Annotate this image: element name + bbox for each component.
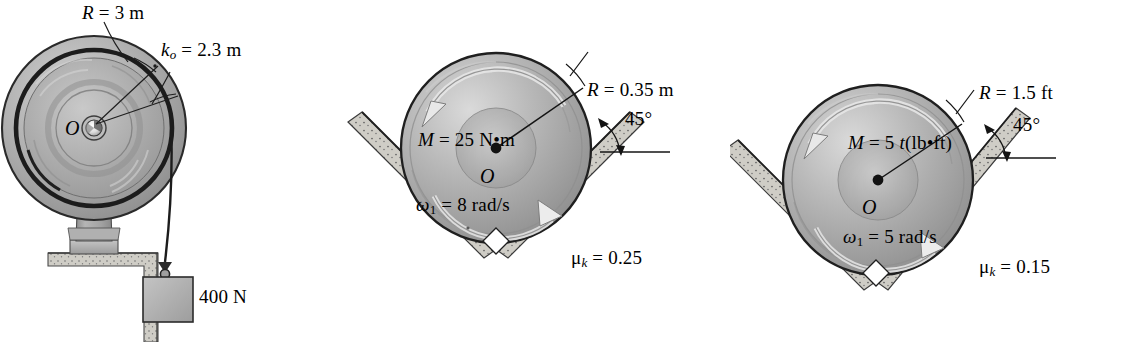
moment-label-fig3: M = 5 t(lb•ft) — [848, 132, 952, 154]
moment-symbol: M — [848, 132, 864, 153]
mu-symbol: μ — [571, 247, 581, 268]
radius-value: 0.35 — [620, 79, 654, 100]
hook — [158, 262, 172, 279]
equals-sign: = — [441, 194, 452, 215]
mu-subscript: k — [581, 255, 587, 270]
center-label-fig2: O — [480, 165, 495, 188]
radius-symbol: R — [979, 82, 991, 103]
surface-speck — [466, 226, 469, 229]
moment-value: 25 — [455, 129, 474, 150]
gyration-subscript: o — [170, 47, 177, 62]
equals-sign: = — [996, 82, 1007, 103]
equals-sign: = — [592, 247, 603, 268]
incline-angle-label-fig2: 45° — [625, 108, 652, 130]
omega-symbol: ω — [416, 194, 430, 215]
equals-sign: = — [99, 2, 110, 23]
radius-leader — [956, 90, 974, 114]
moment-value: 5 — [885, 132, 895, 153]
incline-angle-label-fig3: 45° — [1013, 114, 1040, 136]
gyration-unit: m — [226, 39, 241, 60]
weight-label-fig1: 400 N — [199, 286, 247, 308]
moment-symbol: M — [418, 129, 434, 150]
gyration-radius-label-fig1: ko = 2.3 m — [161, 39, 241, 63]
omega-unit: rad/s — [899, 226, 937, 247]
gyration-symbol: k — [161, 39, 170, 60]
gyration-value: 2.3 — [197, 39, 221, 60]
radius-tick-dot — [153, 64, 156, 67]
figure-container: R = 3 m ko = 2.3 m O 400 N — [0, 0, 1129, 342]
friction-label-fig2: μk = 0.25 — [571, 247, 642, 271]
angular-velocity-label-fig3: ω1 = 5 rad/s — [843, 226, 937, 250]
omega-subscript: 1 — [430, 202, 437, 217]
omega-subscript: 1 — [857, 234, 864, 249]
panel-winch-drum: R = 3 m ko = 2.3 m O 400 N — [0, 0, 330, 342]
moment-label-fig2: M = 25 N•m — [418, 129, 515, 151]
moment-unit: (lb•ft) — [905, 132, 952, 153]
base-plate — [70, 240, 118, 254]
friction-value: 0.25 — [608, 247, 642, 268]
mu-subscript: k — [989, 264, 995, 279]
friction-label-fig3: μk = 0.15 — [979, 256, 1050, 280]
omega-value: 5 — [884, 226, 894, 247]
friction-value: 0.15 — [1016, 256, 1050, 277]
wheel-v-groove-fps-drawing — [730, 0, 1129, 342]
radius-leader — [570, 52, 588, 76]
radius-unit: m — [659, 79, 674, 100]
radius-unit: ft — [1041, 82, 1053, 103]
equals-sign: = — [181, 39, 192, 60]
omega-unit: rad/s — [472, 194, 510, 215]
center-label-fig3: O — [862, 196, 877, 219]
hatched-ground-step — [48, 253, 158, 342]
equals-sign: = — [868, 226, 879, 247]
wheel-v-groove-si-drawing — [330, 0, 730, 342]
equals-sign: = — [439, 129, 450, 150]
equals-sign: = — [604, 79, 615, 100]
radius-symbol: R — [82, 2, 94, 23]
radius-unit: m — [129, 2, 144, 23]
radius-symbol: R — [587, 79, 599, 100]
radius-value: 3 — [115, 2, 125, 23]
radius-label-fig2: R = 0.35 m — [587, 79, 674, 101]
equals-sign: = — [1000, 256, 1011, 277]
moment-unit: N•m — [479, 129, 515, 150]
radius-label-fig3: R = 1.5 ft — [979, 82, 1053, 104]
radius-value: 1.5 — [1012, 82, 1036, 103]
panel-wheel-v-groove-si: R = 0.35 m M = 25 N•m O ω1 = 8 rad/s μk … — [330, 0, 730, 342]
angular-velocity-label-fig2: ω1 = 8 rad/s — [416, 194, 510, 218]
omega-symbol: ω — [843, 226, 857, 247]
panel-wheel-v-groove-fps: R = 1.5 ft M = 5 t(lb•ft) O ω1 = 5 rad/s… — [730, 0, 1129, 342]
radius-label-fig1: R = 3 m — [82, 2, 144, 24]
suspended-block — [143, 277, 193, 322]
center-label-fig1: O — [65, 117, 80, 140]
equals-sign: = — [869, 132, 880, 153]
omega-value: 8 — [457, 194, 467, 215]
large-grooved-drum — [2, 36, 186, 220]
mu-symbol: μ — [979, 256, 989, 277]
